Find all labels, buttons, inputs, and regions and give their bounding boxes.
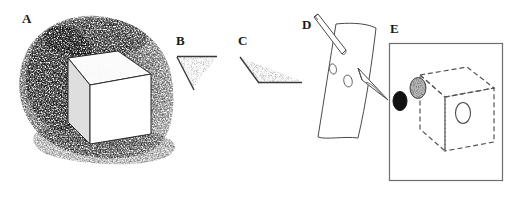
cube-front-face [90,74,151,144]
panel-label-a: A [22,12,32,25]
white-ellipse [456,103,471,124]
panel-label-b: B [176,34,185,47]
panel-a-artwork [14,10,186,170]
panel-e-artwork [390,44,503,181]
figure-canvas: A B C D E [0,0,515,198]
frame-rectangle [390,44,503,181]
wedge-stipple-b [176,54,220,92]
panel-label-d: D [302,18,312,31]
figure-artwork [0,0,515,198]
panel-label-c: C [238,34,248,47]
panel-label-e: E [390,22,399,35]
panel-c-artwork [238,55,304,87]
black-ellipse [393,92,407,111]
panel-d-artwork [314,14,388,138]
panel-b-artwork [176,54,220,92]
